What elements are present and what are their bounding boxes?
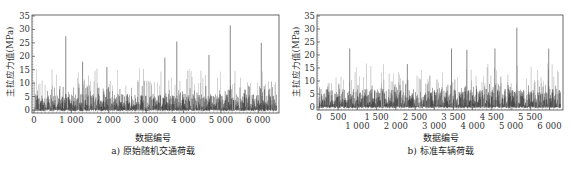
- y-tick-label: 35: [19, 11, 30, 21]
- y-tick-label: 15: [304, 63, 315, 73]
- data-series: [34, 25, 277, 111]
- x-tick-label: 4 000: [171, 115, 195, 125]
- x-tick-label: 6 000: [246, 115, 270, 125]
- y-tick-label: 35: [304, 11, 315, 21]
- y-tick-label: 10: [19, 78, 30, 88]
- y-tick-label: 30: [304, 24, 315, 34]
- x-tick-label: 0: [316, 112, 321, 122]
- x-tick-label: 5 000: [209, 115, 233, 125]
- y-tick-label: 20: [19, 51, 30, 61]
- y-tick-label: 10: [304, 76, 315, 86]
- x-tick-label: 5 000: [499, 121, 523, 130]
- x-tick-label: 0: [31, 115, 36, 125]
- x-tick-label: 2 000: [384, 121, 408, 130]
- x-tick-label: 2 000: [97, 115, 121, 125]
- y-axis-label: 主拉应力值(MPa): [3, 22, 15, 102]
- data-series: [319, 28, 561, 109]
- x-tick-label: 500: [330, 112, 346, 122]
- stress-chart-b: 0510152025303505001 0001 5002 0002 5003 …: [286, 0, 571, 130]
- x-tick-label: 3 000: [134, 115, 158, 125]
- chart-panel-b: 0510152025303505001 0001 5002 0002 5003 …: [286, 0, 571, 170]
- x-axis-label: 数据编号: [298, 131, 571, 144]
- x-tick-label: 1 000: [59, 115, 83, 125]
- x-tick-label: 4 000: [460, 121, 484, 130]
- y-tick-label: 5: [310, 89, 315, 99]
- x-tick-label: 1 000: [345, 121, 369, 130]
- stress-chart-a: 0510152025303501 0002 0003 0004 0005 000…: [0, 0, 286, 130]
- y-tick-label: 5: [25, 92, 30, 102]
- y-axis-label: 主拉应力值(MPa): [289, 22, 301, 102]
- x-axis-label: 数据编号: [10, 131, 296, 144]
- y-tick-label: 15: [19, 65, 30, 75]
- chart-title: b) 标准车辆荷载: [298, 144, 571, 157]
- chart-panel-a: 0510152025303501 0002 0003 0004 0005 000…: [0, 0, 286, 170]
- y-tick-label: 25: [304, 37, 315, 47]
- y-tick-label: 20: [304, 50, 315, 60]
- chart-title: a) 原始随机交通荷载: [10, 144, 296, 157]
- x-tick-label: 3 000: [422, 121, 446, 130]
- x-tick-label: 6 000: [537, 121, 561, 130]
- y-tick-label: 25: [19, 38, 30, 48]
- y-tick-label: 30: [19, 24, 30, 34]
- y-tick-label: 0: [310, 102, 315, 112]
- y-tick-label: 0: [25, 105, 30, 115]
